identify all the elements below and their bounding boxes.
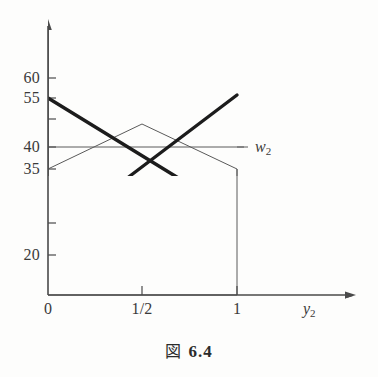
y-tick-label-20: 20 (8, 246, 40, 264)
w2-label-subscript: 2 (266, 145, 272, 157)
x-tick-label-1: 1 (223, 300, 251, 318)
figure-caption-number: 6.4 (188, 342, 212, 361)
x-axis-title: y2 (303, 300, 316, 318)
y-tick-label-60: 60 (8, 69, 40, 87)
x-tick-label-0: 0 (34, 300, 62, 318)
y-tick-label-40: 40 (8, 138, 40, 156)
y-tick-label-55: 55 (8, 89, 40, 107)
x-tick-label-half: 1/2 (120, 300, 164, 318)
figure-caption: 図6.4 (0, 338, 378, 362)
x-axis-title-subscript: 2 (310, 307, 316, 319)
w2-series-label: w2 (255, 138, 271, 156)
y-tick-label-35: 35 (8, 160, 40, 178)
figure-container: 60 55 40 35 20 0 1/2 1 y2 w2 図6.4 (0, 0, 378, 377)
plot-clip-cover (0, 0, 378, 377)
chart-plot-area (0, 0, 378, 377)
figure-caption-mark: 図 (165, 343, 182, 360)
